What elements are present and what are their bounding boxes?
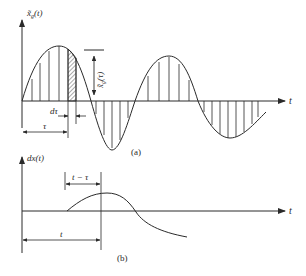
response-curve	[67, 193, 187, 237]
t-label: t	[60, 229, 63, 239]
figure-b: dx(t) t t − τ t (b)	[22, 153, 292, 263]
svg-text:x̃g(τ): x̃g(τ)	[95, 72, 106, 89]
caption-b: (b)	[117, 253, 128, 263]
tau-label: τ	[43, 121, 47, 131]
x-axis-label-b: t	[289, 205, 292, 216]
x-axis-label-a: t	[289, 95, 292, 106]
diagram-canvas: x̃g(τ) x̃g(t) t dτ τ (a) dx(t) t t − τ t	[0, 0, 306, 276]
figure-a: x̃g(τ) x̃g(t) t dτ τ (a)	[22, 8, 292, 157]
y-axis-label-b: dx(t)	[27, 153, 44, 163]
y-axis-label-a: x̃g(t)	[26, 8, 43, 19]
delay-label: t − τ	[72, 172, 89, 182]
amplitude-label: x̃g(τ)	[95, 72, 106, 89]
caption-a: (a)	[131, 147, 141, 157]
sample-lines	[32, 46, 258, 148]
dtau-label: dτ	[50, 106, 59, 116]
